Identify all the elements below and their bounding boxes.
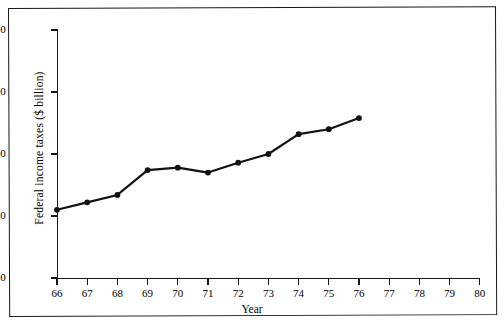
figure-container: 050100150200 666768697071727374757677787… bbox=[0, 0, 504, 334]
data-point-69 bbox=[145, 167, 151, 173]
data-point-73 bbox=[266, 151, 272, 157]
data-series-layer bbox=[0, 0, 504, 334]
series-line-federal-income-taxes bbox=[57, 118, 359, 210]
data-point-72 bbox=[235, 160, 241, 166]
data-point-75 bbox=[326, 126, 332, 132]
data-point-68 bbox=[115, 192, 121, 198]
data-point-70 bbox=[175, 165, 181, 171]
figure-caption-text bbox=[10, 325, 310, 334]
data-point-71 bbox=[205, 170, 211, 176]
chart-plot-area: 050100150200 666768697071727374757677787… bbox=[0, 0, 504, 334]
figure-caption bbox=[10, 325, 310, 334]
data-point-74 bbox=[296, 131, 302, 137]
data-point-66 bbox=[54, 207, 60, 213]
data-point-76 bbox=[356, 115, 362, 121]
data-point-67 bbox=[84, 199, 90, 205]
